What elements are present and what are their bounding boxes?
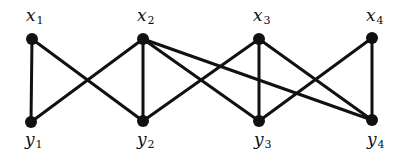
label-x3: x3 <box>253 7 271 26</box>
edges-group <box>31 38 372 122</box>
label-x4: x4 <box>366 7 384 26</box>
node-y4 <box>366 114 378 126</box>
label-y2: y2 <box>137 131 155 150</box>
label-y3: y3 <box>254 131 272 150</box>
node-y2 <box>137 115 149 127</box>
label-y4: y4 <box>367 131 385 150</box>
node-x4 <box>366 32 378 44</box>
node-x2 <box>137 33 149 45</box>
node-y1 <box>25 116 37 128</box>
edge-x1-y1 <box>31 39 32 122</box>
node-x3 <box>253 33 265 45</box>
label-y1: y1 <box>25 131 43 150</box>
label-x2: x2 <box>137 7 155 26</box>
label-x1: x1 <box>26 7 44 26</box>
bipartite-graph <box>0 0 399 157</box>
node-x1 <box>26 33 38 45</box>
node-y3 <box>253 115 265 127</box>
